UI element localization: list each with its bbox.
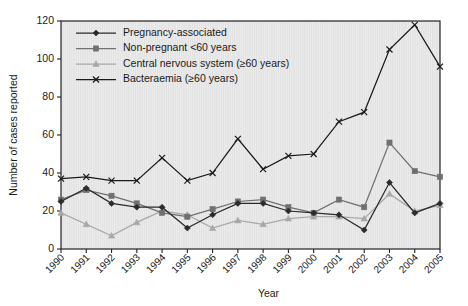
series-marker-1 — [336, 197, 341, 202]
x-tick-label: 2002 — [346, 251, 370, 275]
series-marker-1 — [109, 193, 114, 198]
series-marker-1 — [210, 207, 215, 212]
line-chart: 0204060801001201990199119921993199419951… — [0, 0, 468, 306]
x-tick-label: 1999 — [270, 251, 294, 275]
x-tick-label: 1991 — [68, 251, 92, 275]
series-marker-1 — [387, 140, 392, 145]
y-tick-label: 60 — [42, 128, 54, 140]
series-marker-1 — [437, 174, 442, 179]
x-tick-label: 1993 — [119, 251, 143, 275]
x-tick-label: 1998 — [245, 251, 269, 275]
y-tick-label: 100 — [36, 52, 54, 64]
series-marker-1 — [412, 169, 417, 174]
x-tick-label: 1996 — [195, 251, 219, 275]
x-tick-label: 2004 — [397, 251, 421, 275]
x-axis-title: Year — [258, 287, 280, 299]
x-tick-label: 1997 — [220, 251, 244, 275]
chart-figure: 0204060801001201990199119921993199419951… — [0, 0, 468, 306]
series-marker-1 — [185, 214, 190, 219]
y-tick-label: 20 — [42, 204, 54, 216]
series-marker-1 — [362, 205, 367, 210]
y-tick-label: 80 — [42, 90, 54, 102]
x-tick-label: 1990 — [43, 251, 67, 275]
legend-label-1: Non-pregnant <60 years — [123, 41, 237, 53]
x-tick-label: 1994 — [144, 251, 168, 275]
x-tick-label: 1995 — [169, 251, 193, 275]
legend-label-3: Bacteraemia (≥60 years) — [123, 72, 238, 84]
series-marker-1 — [159, 210, 164, 215]
x-tick-label: 2001 — [321, 251, 345, 275]
y-tick-label: 0 — [48, 242, 54, 254]
legend-label-2: Central nervous system (≥60 years) — [123, 57, 289, 69]
y-tick-label: 40 — [42, 166, 54, 178]
x-tick-label: 1992 — [93, 251, 117, 275]
x-tick-label: 2005 — [422, 251, 446, 275]
x-tick-label: 2003 — [371, 251, 395, 275]
x-tick-label: 2000 — [296, 251, 320, 275]
legend-label-0: Pregnancy-associated — [123, 26, 227, 38]
plot-area: 0204060801001201990199119921993199419951… — [7, 14, 446, 299]
y-tick-label: 120 — [36, 14, 54, 26]
y-axis-title: Number of cases reported — [7, 74, 19, 196]
legend-marker-1 — [93, 46, 98, 51]
